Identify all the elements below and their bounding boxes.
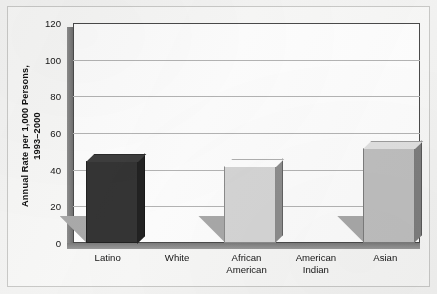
figure-container: Annual Rate per 1,000 Persons, 1993–2000… (0, 0, 437, 294)
x-axis-tick-label-line: American (296, 252, 337, 263)
bar-top-face (86, 154, 146, 162)
bar-slot (281, 23, 350, 243)
y-axis-title-line-2: 1993–2000 (31, 65, 43, 207)
bar-latino[interactable] (86, 161, 138, 244)
bar-front-face (86, 161, 138, 244)
axis-floor (67, 243, 420, 249)
x-axis-tick-label-line: African (232, 252, 262, 263)
y-axis-title-line-1: Annual Rate per 1,000 Persons, (20, 65, 30, 207)
y-axis-tick-label: 60 (50, 128, 61, 139)
x-axis-tick-label-line: White (165, 252, 190, 263)
bar-slot (73, 23, 142, 243)
plot-area: 020406080100120 (73, 23, 420, 243)
y-axis-tick-label: 0 (56, 238, 61, 249)
x-axis-tick-label-line: Indian (266, 264, 366, 276)
x-axis-tick-label-line: Latino (95, 252, 121, 263)
y-axis-tick-label: 100 (45, 54, 61, 65)
x-axis-tick-label: Asian (335, 252, 435, 264)
bar-slot (351, 23, 420, 243)
y-axis-tick-label: 80 (50, 91, 61, 102)
bar-slot (212, 23, 281, 243)
y-axis-tick-label: 120 (45, 18, 61, 29)
y-axis-tick-label: 40 (50, 164, 61, 175)
y-axis-tick-label: 20 (50, 201, 61, 212)
y-axis-title-container: Annual Rate per 1,000 Persons, 1993–2000 (14, 28, 48, 244)
bar-slot (142, 23, 211, 243)
y-axis-title: Annual Rate per 1,000 Persons, 1993–2000 (20, 65, 43, 207)
x-axis-tick-label-line: Asian (373, 252, 397, 263)
